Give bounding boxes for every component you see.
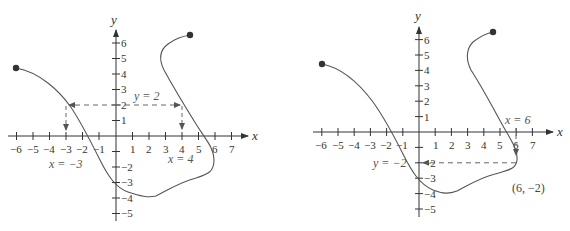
- svg-text:−5: −5: [332, 139, 344, 151]
- label-y-equals-2: y = 2: [133, 89, 159, 103]
- svg-text:4: 4: [481, 139, 487, 151]
- y-axis-label: y: [413, 8, 421, 23]
- svg-text:5: 5: [424, 49, 430, 61]
- endpoint-right: [490, 29, 496, 35]
- left-graph: x y −6 −5 −4 −3 −2 −1 1 2 3 4 5 6 7: [0, 0, 285, 231]
- svg-text:−4: −4: [121, 192, 133, 204]
- svg-text:6: 6: [121, 37, 127, 49]
- svg-text:1: 1: [433, 139, 439, 151]
- svg-text:−3: −3: [364, 139, 376, 151]
- endpoint-left: [13, 65, 19, 71]
- endpoint-left: [319, 61, 325, 67]
- label-y-equals-neg2: y = −2: [372, 156, 407, 170]
- y-tick-labels: 6 5 4 3 2 1 −2 −3 −4 −5: [424, 34, 436, 215]
- svg-text:−2: −2: [76, 143, 88, 155]
- svg-text:1: 1: [121, 114, 127, 126]
- x-axis-label: x: [251, 128, 258, 143]
- svg-text:1: 1: [130, 143, 136, 155]
- label-x-equals-4: x = 4: [167, 152, 193, 166]
- x-tick-labels: −6 −5 −4 −3 −2 −1 1 2 3 4 5 6 7: [10, 143, 235, 155]
- svg-text:5: 5: [121, 52, 127, 64]
- svg-text:−5: −5: [121, 207, 133, 219]
- svg-text:−2: −2: [121, 161, 133, 173]
- svg-text:−5: −5: [424, 203, 436, 215]
- x-axis-label: x: [556, 124, 563, 139]
- svg-text:4: 4: [121, 68, 127, 80]
- svg-text:2: 2: [146, 143, 152, 155]
- svg-text:6: 6: [424, 34, 430, 46]
- svg-text:−1: −1: [396, 139, 408, 151]
- svg-text:2: 2: [449, 139, 455, 151]
- svg-text:−4: −4: [43, 143, 55, 155]
- svg-text:3: 3: [465, 139, 471, 151]
- label-point-6-neg2: (6, −2): [512, 181, 545, 195]
- svg-text:−3: −3: [424, 172, 436, 184]
- y-axis-label: y: [109, 12, 117, 27]
- svg-text:4: 4: [424, 64, 430, 76]
- right-graph: x y −6 −5 −4 −3 −2 −1 1 2 3 4 5 6 7: [285, 0, 570, 231]
- svg-text:−3: −3: [121, 176, 133, 188]
- svg-text:−6: −6: [315, 139, 327, 151]
- svg-text:7: 7: [229, 143, 235, 155]
- relation-curve: [16, 35, 214, 197]
- svg-text:5: 5: [497, 139, 503, 151]
- label-x-equals-neg3: x = −3: [48, 157, 83, 171]
- svg-text:−4: −4: [424, 188, 436, 200]
- svg-text:7: 7: [530, 139, 536, 151]
- svg-text:−4: −4: [348, 139, 360, 151]
- svg-text:5: 5: [196, 143, 202, 155]
- endpoint-right: [187, 32, 193, 38]
- relation-curve: [322, 32, 517, 193]
- svg-text:−5: −5: [27, 143, 39, 155]
- svg-text:−2: −2: [380, 139, 392, 151]
- svg-text:2: 2: [424, 95, 430, 107]
- svg-text:1: 1: [424, 111, 430, 123]
- svg-text:3: 3: [121, 83, 127, 95]
- svg-text:3: 3: [424, 80, 430, 92]
- x-tick-labels: −6 −5 −4 −3 −2 −1 1 2 3 4 5 6 7: [315, 139, 536, 151]
- svg-text:−3: −3: [60, 143, 72, 155]
- label-x-equals-6: x = 6: [504, 113, 530, 127]
- svg-text:−6: −6: [10, 143, 22, 155]
